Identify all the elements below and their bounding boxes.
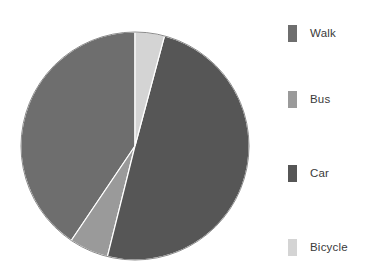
pie-svg bbox=[18, 28, 252, 268]
legend-item-walk[interactable]: Walk bbox=[288, 24, 336, 42]
legend-label-walk: Walk bbox=[310, 26, 336, 40]
legend-swatch-bus bbox=[288, 91, 297, 108]
legend-swatch-bicycle bbox=[288, 239, 297, 256]
legend-label-bus: Bus bbox=[310, 92, 330, 106]
legend-item-car[interactable]: Car bbox=[288, 164, 329, 182]
pie-slice-group bbox=[21, 32, 249, 260]
pie-chart-figure: Walk Bus Car Bicycle bbox=[0, 0, 378, 277]
pie-plot-area bbox=[18, 28, 252, 268]
legend-swatch-walk bbox=[288, 25, 297, 42]
legend-label-car: Car bbox=[310, 166, 329, 180]
legend-swatch-car bbox=[288, 165, 297, 182]
legend-item-bicycle[interactable]: Bicycle bbox=[288, 238, 348, 256]
chart-legend: Walk Bus Car Bicycle bbox=[288, 16, 378, 268]
legend-label-bicycle: Bicycle bbox=[310, 240, 348, 254]
legend-item-bus[interactable]: Bus bbox=[288, 90, 330, 108]
